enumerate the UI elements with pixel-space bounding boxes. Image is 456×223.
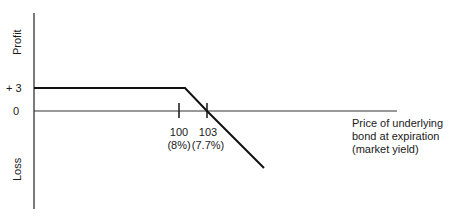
y-tick-label-3: + 3 (6, 82, 22, 95)
x-tick-sublabel-103: (7.7%) (187, 139, 229, 152)
x-axis-label-line-1: Price of underlying (352, 117, 443, 130)
x-tick-label-103: 103 (187, 126, 229, 139)
x-axis-label-line-2: bond at expiration (352, 130, 439, 143)
payoff-chart (0, 0, 456, 223)
payoff-line (34, 88, 264, 168)
profit-label: Profit (11, 25, 23, 55)
x-axis-label-line-3: (market yield) (352, 143, 419, 156)
y-tick-label-0: 0 (13, 105, 19, 118)
loss-label: Loss (11, 155, 23, 181)
